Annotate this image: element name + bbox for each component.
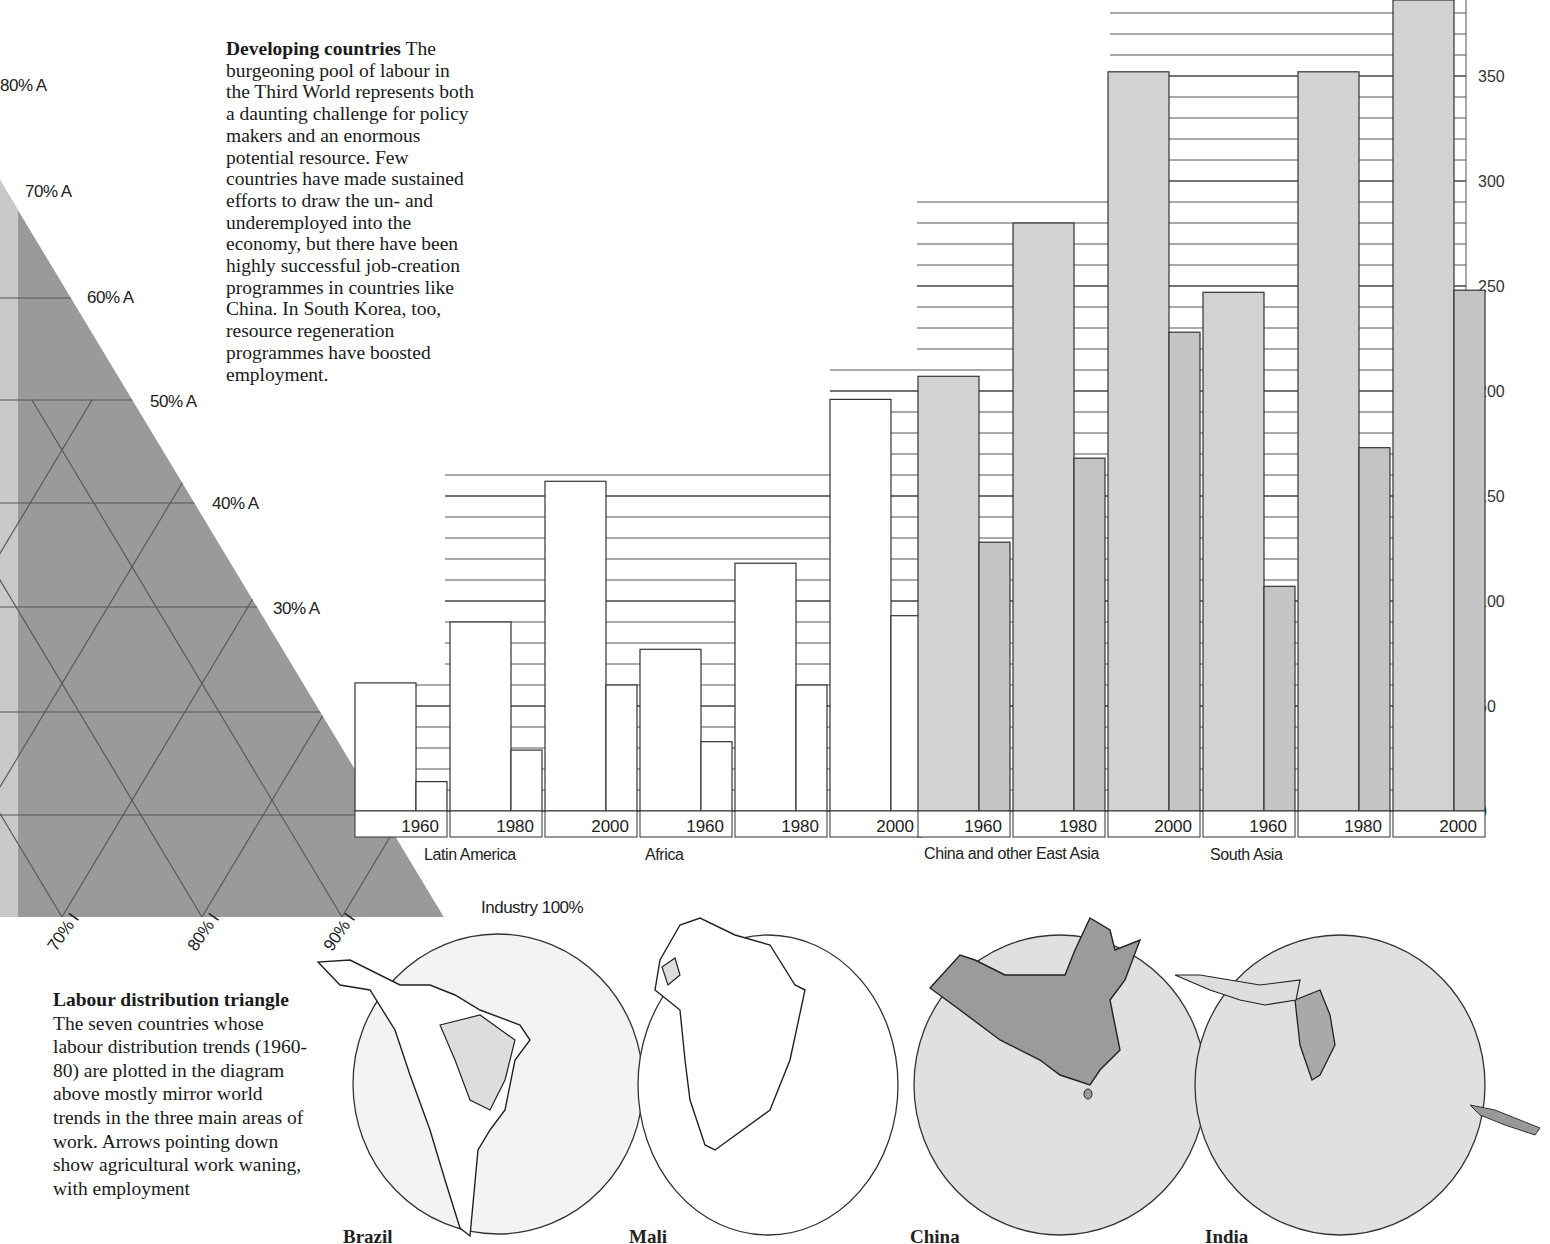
year-label: 1980	[1344, 817, 1382, 836]
triangle-caption-body: The seven countries whose labour distrib…	[53, 1013, 307, 1199]
bar-subtotal	[1359, 448, 1390, 811]
year-label: 1980	[496, 817, 534, 836]
agri-label-80: 80% A	[0, 76, 47, 96]
bar-total	[918, 376, 979, 811]
bar-total	[1393, 0, 1454, 811]
year-label: 1980	[781, 817, 819, 836]
bar-group-africa: 196019802000	[640, 399, 922, 837]
group-label-latin-america: Latin America	[424, 846, 516, 864]
industry-100-label: Industry 100%	[481, 898, 583, 918]
year-label: 1960	[1249, 817, 1287, 836]
agri-label-50: 50% A	[150, 392, 197, 412]
bar-group-china-and-other-east-asia: 196019802000	[918, 72, 1200, 837]
y-tick-label: 300	[1478, 173, 1505, 190]
group-label-east-asia: China and other East Asia	[924, 845, 1099, 863]
bar-total	[1108, 72, 1169, 811]
bar-subtotal	[1074, 458, 1105, 811]
agri-label-40: 40% A	[212, 494, 259, 514]
intro-body: The burgeoning pool of labour in the Thi…	[226, 38, 474, 385]
bar-subtotal	[511, 750, 542, 811]
year-label: 1980	[1059, 817, 1097, 836]
group-label-africa: Africa	[645, 846, 684, 864]
intro-heading: Developing countries	[226, 38, 401, 59]
year-label: 2000	[591, 817, 629, 836]
triangle-caption: Labour distribution triangle The seven c…	[53, 988, 313, 1200]
bar-subtotal	[891, 616, 922, 811]
bar-total	[1298, 72, 1359, 811]
bar-subtotal	[1264, 586, 1295, 811]
bar-group-south-asia: 196019802000	[1203, 0, 1485, 837]
bar-total	[355, 683, 416, 811]
intro-text: Developing countries The burgeoning pool…	[226, 38, 476, 385]
map-label-china: China	[910, 1226, 960, 1244]
bar-subtotal	[979, 542, 1010, 811]
year-label: 2000	[1439, 817, 1477, 836]
year-label: 1960	[401, 817, 439, 836]
bar-total	[1203, 292, 1264, 811]
taiwan-shape	[1084, 1089, 1092, 1099]
globe-map-india	[1195, 935, 1485, 1235]
bar-total	[450, 622, 511, 811]
agri-label-70: 70% A	[25, 182, 72, 202]
group-label-south-asia: South Asia	[1210, 846, 1283, 864]
map-label-brazil: Brazil	[343, 1226, 393, 1244]
bar-group-latin-america: 196019802000	[355, 481, 637, 837]
bar-subtotal	[1169, 332, 1200, 811]
bar-total	[830, 399, 891, 811]
triangle-caption-title: Labour distribution triangle	[53, 988, 313, 1012]
year-label: 2000	[876, 817, 914, 836]
year-label: 1960	[964, 817, 1002, 836]
bar-total	[735, 563, 796, 811]
agri-label-60: 60% A	[87, 288, 134, 308]
y-tick-label: 350	[1478, 68, 1505, 85]
map-label-mali: Mali	[629, 1226, 667, 1244]
bar-total	[545, 481, 606, 811]
bar-total	[640, 649, 701, 811]
bar-subtotal	[416, 782, 447, 811]
bar-total	[1013, 223, 1074, 811]
bar-subtotal	[701, 742, 732, 811]
year-label: 1960	[686, 817, 724, 836]
agri-label-30: 30% A	[273, 599, 320, 619]
bar-subtotal	[1454, 290, 1485, 811]
map-label-india: India	[1205, 1226, 1248, 1244]
bar-subtotal	[796, 685, 827, 811]
year-label: 2000	[1154, 817, 1192, 836]
bar-subtotal	[606, 685, 637, 811]
